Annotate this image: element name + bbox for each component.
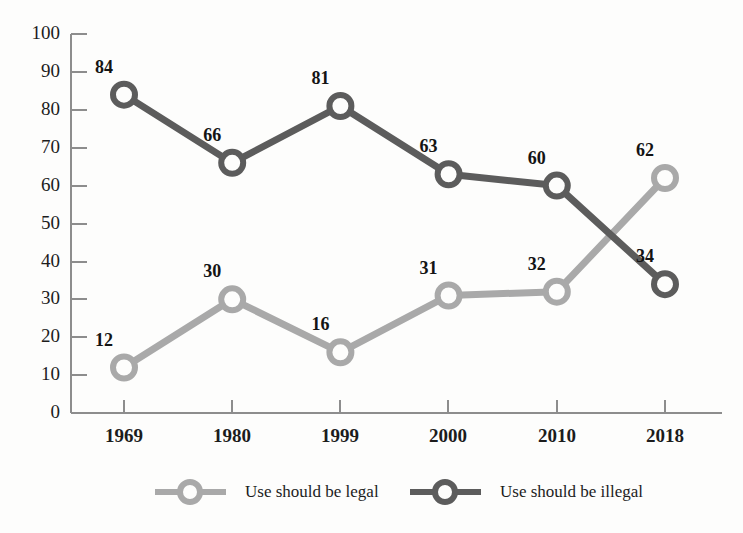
data-point-marker[interactable]: [113, 84, 135, 106]
data-point-marker[interactable]: [438, 285, 460, 307]
data-point-label: 32: [528, 254, 546, 274]
x-tick-label: 2018: [646, 425, 684, 446]
legend-label-legal: Use should be legal: [245, 482, 379, 501]
data-point-marker[interactable]: [329, 341, 351, 363]
y-tick-label: 50: [41, 212, 60, 233]
legend-label-illegal: Use should be illegal: [500, 482, 643, 501]
data-point-label: 12: [95, 330, 113, 350]
y-tick-label: 30: [41, 287, 60, 308]
legend-item-legal[interactable]: Use should be legal: [155, 482, 379, 502]
legend-marker-legal: [180, 482, 200, 502]
x-tick-label: 1969: [105, 425, 143, 446]
data-point-label: 84: [95, 57, 113, 77]
y-tick-label: 40: [41, 250, 60, 271]
data-point-label: 16: [311, 314, 329, 334]
data-point-marker[interactable]: [221, 288, 243, 310]
data-point-marker[interactable]: [546, 281, 568, 303]
chart-page: 100 90 80 70 60 50 40 30 20 10 0 1969 19…: [0, 0, 743, 533]
x-tick-label: 1980: [213, 425, 251, 446]
y-tick-label: 90: [41, 60, 60, 81]
x-tick-label: 2000: [429, 425, 467, 446]
data-point-marker[interactable]: [654, 167, 676, 189]
data-point-marker[interactable]: [546, 175, 568, 197]
data-point-marker[interactable]: [438, 163, 460, 185]
data-point-label: 34: [636, 246, 654, 266]
data-point-label: 31: [420, 258, 438, 278]
y-tick-label: 70: [41, 136, 60, 157]
data-point-label: 30: [203, 261, 221, 281]
legend-item-illegal[interactable]: Use should be illegal: [410, 482, 643, 502]
x-tick-label: 1999: [321, 425, 359, 446]
y-tick-label: 10: [41, 363, 60, 384]
legend-marker-illegal: [435, 482, 455, 502]
y-tick-label: 0: [51, 401, 61, 422]
y-tick-label: 100: [32, 22, 61, 43]
data-point-label: 60: [528, 148, 546, 168]
y-tick-label: 80: [41, 98, 60, 119]
data-point-marker[interactable]: [654, 273, 676, 295]
data-point-label: 81: [311, 68, 329, 88]
data-point-label: 63: [420, 136, 438, 156]
y-tick-label: 20: [41, 325, 60, 346]
chart-background: [0, 0, 743, 533]
data-point-marker[interactable]: [113, 357, 135, 379]
data-point-label: 62: [636, 140, 654, 160]
data-point-marker[interactable]: [221, 152, 243, 174]
y-tick-label: 60: [41, 174, 60, 195]
data-point-marker[interactable]: [329, 95, 351, 117]
x-tick-label: 2010: [538, 425, 576, 446]
data-point-label: 66: [203, 125, 221, 145]
line-chart: 100 90 80 70 60 50 40 30 20 10 0 1969 19…: [0, 0, 743, 533]
